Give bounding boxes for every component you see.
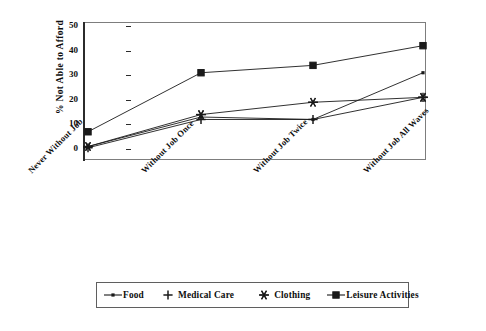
- data-point-square-marker: [310, 62, 316, 68]
- chart-figure: % Not Able to Afford 01020304050 Never W…: [0, 0, 486, 331]
- data-point-square-marker: [420, 42, 426, 48]
- data-point-asterisk-marker: [308, 98, 318, 106]
- legend-item[interactable]: Leisure Activities: [326, 283, 418, 307]
- square-marker-icon: [326, 288, 346, 302]
- legend-item-label: Food: [123, 290, 144, 300]
- legend-item[interactable]: Food: [103, 283, 144, 307]
- legend-item[interactable]: Clothing: [254, 283, 310, 307]
- series-medical-care: [83, 93, 427, 153]
- line-marker-icon: [103, 288, 123, 302]
- series-food: [86, 71, 424, 148]
- data-point-plus-marker: [196, 115, 205, 124]
- chart-legend: FoodMedical CareClothingLeisure Activiti…: [96, 282, 409, 308]
- legend-item-label: Clothing: [274, 290, 310, 300]
- data-point-plus-marker: [163, 290, 172, 299]
- data-point-small-line-dot-marker: [421, 71, 424, 74]
- data-point-asterisk-marker: [259, 291, 269, 299]
- data-point-plus-marker: [308, 115, 317, 124]
- asterisk-marker-icon: [254, 288, 274, 302]
- data-point-square-marker: [85, 129, 91, 135]
- data-point-square-marker: [198, 70, 204, 76]
- data-point-square-marker: [333, 292, 339, 298]
- legend-item[interactable]: Medical Care: [158, 283, 234, 307]
- legend-item-label: Leisure Activities: [346, 290, 418, 300]
- series-leisure-activities: [85, 42, 426, 135]
- legend-item-label: Medical Care: [178, 290, 234, 300]
- data-point-small-line-dot-marker: [111, 293, 114, 296]
- plus-marker-icon: [158, 288, 178, 302]
- series-clothing: [83, 93, 428, 151]
